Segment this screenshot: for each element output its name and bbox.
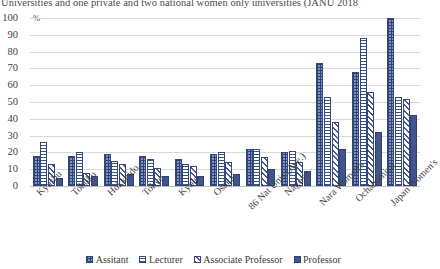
bar <box>33 156 40 186</box>
bar <box>316 63 323 186</box>
plot-bars <box>30 18 420 186</box>
bar-group <box>172 18 207 186</box>
legend-item[interactable]: Assitant <box>86 254 128 265</box>
bar-group <box>314 18 349 186</box>
y-axis-tick-label: 90 <box>0 30 18 40</box>
bar-group <box>207 18 242 186</box>
bar <box>210 154 217 186</box>
bar <box>253 149 260 186</box>
y-axis-tick-label: 40 <box>0 114 18 124</box>
chart-legend: AssitantLecturerAssociate ProfessorProfe… <box>0 254 427 265</box>
y-axis-tick-label: 100 <box>0 13 18 23</box>
bar <box>403 99 410 186</box>
bar-group <box>136 18 171 186</box>
y-axis-tick-label: 70 <box>0 63 18 73</box>
bar <box>139 156 146 186</box>
bar <box>104 154 111 186</box>
legend-label: Assitant <box>96 254 129 265</box>
x-axis-labels: KyushuTohokuHokkaidoTokyoKyotoOsaka86 Na… <box>0 186 427 248</box>
y-axis-tick-label: 30 <box>0 131 18 141</box>
y-axis-tick-label: 60 <box>0 80 18 90</box>
bar <box>175 159 182 186</box>
y-axis-tick-label: 20 <box>0 147 18 157</box>
y-axis-tick-label: 50 <box>0 97 18 107</box>
bar <box>68 156 75 186</box>
y-axis-tick-label: 10 <box>0 164 18 174</box>
legend-swatch-icon <box>139 256 146 263</box>
legend-label: Professor <box>303 254 341 265</box>
bar <box>324 97 331 186</box>
legend-item[interactable]: Associate Professor <box>194 254 283 265</box>
bar <box>246 149 253 186</box>
bar-group <box>65 18 100 186</box>
bar <box>367 92 374 186</box>
bar-group <box>243 18 278 186</box>
legend-swatch-icon <box>294 256 301 263</box>
legend-item[interactable]: Professor <box>294 254 341 265</box>
bar-group <box>101 18 136 186</box>
bar <box>332 122 339 186</box>
bar-group <box>30 18 65 186</box>
legend-swatch-icon <box>194 256 201 263</box>
legend-swatch-icon <box>86 256 93 263</box>
legend-label: Lecturer <box>149 254 183 265</box>
legend-item[interactable]: Lecturer <box>139 254 182 265</box>
bar <box>395 97 402 186</box>
y-axis-tick-label: 80 <box>0 47 18 57</box>
legend-label: Associate Professor <box>203 254 282 265</box>
